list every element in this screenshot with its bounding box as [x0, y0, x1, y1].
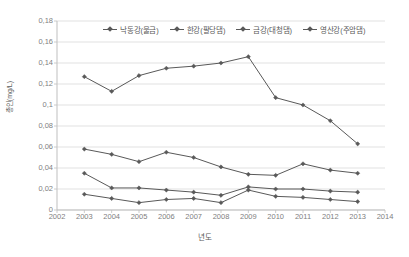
x-axis-ticks: 2002200320042005200620072008200920102011… [0, 212, 409, 226]
data-point-marker [328, 197, 332, 201]
data-point-marker [192, 64, 196, 68]
series-line [84, 173, 357, 195]
x-axis-title: 년도 [0, 231, 409, 242]
data-point-marker [192, 155, 196, 159]
y-tick-label: 0,12 [5, 80, 53, 88]
legend-item: 낙동강(물금) [103, 24, 159, 35]
data-point-marker [301, 162, 305, 166]
legend-item: 한강(팔당댐) [170, 24, 226, 35]
legend-item: 금강(대청댐) [236, 24, 292, 35]
legend-marker-icon [103, 25, 117, 33]
legend-label: 금강(대청댐) [253, 24, 292, 35]
chart-legend: 낙동강(물금)한강(팔당댐)금강(대청댐)영산강(주암댐) [100, 22, 368, 36]
y-tick-label: 0,1 [5, 101, 53, 109]
data-point-marker [356, 200, 360, 204]
y-axis-ticks: 00,020,040,060,080,10,120,140,160,18 [0, 21, 53, 210]
legend-marker-icon [303, 25, 317, 33]
data-point-marker [137, 201, 141, 205]
data-point-marker [328, 168, 332, 172]
series-line [84, 149, 357, 175]
data-point-marker [164, 197, 168, 201]
series-line [84, 57, 357, 144]
data-point-marker [219, 61, 223, 65]
plot-area [57, 21, 385, 210]
x-tick-label: 2014 [365, 212, 405, 221]
data-point-marker [137, 186, 141, 190]
data-point-marker [110, 186, 114, 190]
data-point-marker [356, 171, 360, 175]
data-point-marker [356, 190, 360, 194]
line-chart: 총인(mg/L) 00,020,040,060,080,10,120,140,1… [0, 0, 409, 257]
data-point-marker [164, 150, 168, 154]
y-tick-label: 0,02 [5, 185, 53, 193]
y-tick-label: 0,14 [5, 59, 53, 67]
data-point-marker [274, 187, 278, 191]
legend-marker-icon [170, 25, 184, 33]
data-point-marker [219, 165, 223, 169]
legend-label: 한강(팔당댐) [187, 24, 226, 35]
data-point-marker [164, 188, 168, 192]
data-point-marker [137, 160, 141, 164]
data-point-marker [274, 194, 278, 198]
data-point-marker [192, 196, 196, 200]
data-point-marker [219, 201, 223, 205]
plot-canvas [57, 21, 385, 210]
data-point-marker [82, 171, 86, 175]
legend-marker-icon [236, 25, 250, 33]
y-tick-label: 0,04 [5, 164, 53, 172]
data-point-marker [82, 192, 86, 196]
data-point-marker [246, 172, 250, 176]
y-tick-label: 0,06 [5, 143, 53, 151]
data-point-marker [164, 66, 168, 70]
data-point-marker [137, 74, 141, 78]
data-point-marker [274, 173, 278, 177]
data-point-marker [110, 89, 114, 93]
data-point-marker [301, 187, 305, 191]
data-point-marker [301, 195, 305, 199]
data-point-marker [110, 196, 114, 200]
legend-label: 낙동강(물금) [120, 24, 159, 35]
legend-label: 영산강(주암댐) [320, 24, 365, 35]
y-tick-label: 0,08 [5, 122, 53, 130]
data-point-marker [246, 188, 250, 192]
y-tick-label: 0,18 [5, 17, 53, 25]
data-point-marker [192, 190, 196, 194]
data-point-marker [219, 193, 223, 197]
data-point-marker [82, 75, 86, 79]
y-tick-label: 0,16 [5, 38, 53, 46]
data-point-marker [301, 103, 305, 107]
legend-item: 영산강(주암댐) [303, 24, 365, 35]
data-point-marker [82, 147, 86, 151]
data-point-marker [328, 189, 332, 193]
data-point-marker [110, 152, 114, 156]
